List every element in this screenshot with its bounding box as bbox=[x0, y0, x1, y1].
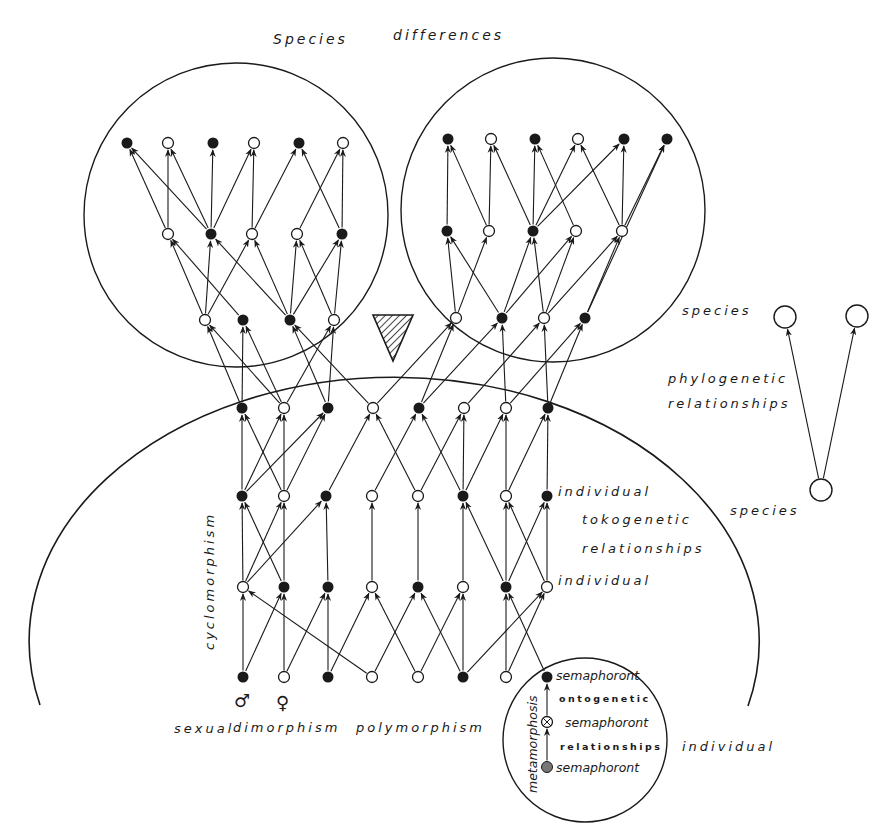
relationship-arrow bbox=[255, 240, 288, 314]
relationship-arrow bbox=[533, 146, 535, 225]
open-semaphoront-node bbox=[501, 403, 512, 414]
open-semaphoront-node bbox=[573, 134, 584, 145]
open-semaphoront-node bbox=[367, 491, 378, 502]
label-metamorphosis: metamorphosis bbox=[525, 695, 540, 793]
open-semaphoront-node bbox=[279, 403, 290, 414]
filled-semaphoront-node bbox=[528, 226, 539, 237]
relationship-arrow bbox=[171, 149, 208, 228]
semaphoront-diagram: Species differences species phylogenetic… bbox=[0, 0, 888, 840]
filled-semaphoront-node bbox=[323, 672, 334, 683]
open-semaphoront-node bbox=[338, 138, 349, 149]
open-semaphoront-node bbox=[571, 226, 582, 237]
open-semaphoront-node bbox=[329, 315, 340, 326]
filled-semaphoront-node bbox=[122, 138, 133, 149]
filled-semaphoront-node bbox=[279, 582, 290, 593]
relationship-arrow bbox=[291, 241, 297, 314]
label-tokogenetic-relationships: relationships bbox=[582, 541, 704, 556]
filled-semaphoront-node bbox=[337, 229, 348, 240]
label-semaphoront-2: semaphoront bbox=[565, 715, 649, 730]
relationship-arrow bbox=[342, 150, 343, 228]
boundaries bbox=[29, 58, 759, 822]
open-semaphoront-node bbox=[279, 672, 290, 683]
relationship-arrow bbox=[622, 146, 624, 225]
relationship-arrow bbox=[242, 327, 243, 402]
filled-semaphoront-node bbox=[285, 315, 296, 326]
relationship-arrow bbox=[451, 237, 499, 313]
filled-semaphoront-node bbox=[443, 134, 454, 145]
label-ontogenetic: ontogenetic bbox=[559, 693, 651, 704]
filled-semaphoront-node bbox=[323, 582, 334, 593]
relationship-arrow bbox=[466, 502, 503, 581]
label-phylogenetic: phylogenetic bbox=[667, 371, 788, 386]
filled-semaphoront-node bbox=[206, 229, 217, 240]
filled-semaphoront-node bbox=[458, 491, 469, 502]
relationship-arrow bbox=[538, 144, 620, 226]
relationship-arrow bbox=[534, 238, 543, 312]
relationship-arrow bbox=[423, 323, 497, 403]
relationship-arrow bbox=[208, 327, 240, 403]
relationship-arrow bbox=[171, 240, 203, 314]
relationship-arrow bbox=[494, 145, 530, 225]
relationship-arrow bbox=[252, 150, 254, 228]
relationship-arrow bbox=[510, 323, 580, 403]
relationship-arrow bbox=[581, 145, 619, 225]
filled-semaphoront-node bbox=[208, 138, 219, 149]
relationship-arrow bbox=[788, 329, 819, 478]
open-semaphoront-node bbox=[163, 138, 174, 149]
filled-semaphoront-node bbox=[323, 403, 334, 414]
open-semaphoront-node bbox=[249, 138, 260, 149]
label-ontogenetic-relationships: relationships bbox=[560, 741, 663, 752]
filled-semaphoront-node bbox=[414, 403, 425, 414]
relationship-arrow bbox=[335, 241, 342, 314]
male-symbol-icon: ♂ bbox=[234, 690, 250, 711]
open-semaphoront-node bbox=[617, 226, 628, 237]
relationship-arrow bbox=[216, 239, 286, 315]
open-semaphoront-node bbox=[279, 491, 290, 502]
open-semaphoront-node bbox=[413, 672, 424, 683]
relationship-arrows bbox=[130, 144, 855, 761]
relationship-arrow bbox=[509, 414, 545, 490]
relationship-arrow bbox=[246, 326, 281, 402]
relationship-arrow bbox=[331, 593, 369, 671]
open-semaphoront-node bbox=[367, 672, 378, 683]
open-semaphoront-node bbox=[451, 313, 462, 324]
relationship-arrow bbox=[447, 146, 448, 225]
filled-semaphoront-node bbox=[662, 134, 673, 145]
relationship-arrow bbox=[823, 328, 854, 478]
hatched-triangle-icon bbox=[373, 315, 413, 361]
open-semaphoront-node bbox=[238, 582, 249, 593]
label-cyclomorphism: cyclomorphism bbox=[202, 512, 217, 650]
open-semaphoront-node bbox=[539, 313, 550, 324]
species-circle-right bbox=[401, 58, 705, 362]
relationship-arrow bbox=[249, 591, 367, 673]
relationship-arrow bbox=[214, 149, 251, 228]
relationship-arrow bbox=[132, 148, 207, 229]
relationship-arrow bbox=[211, 150, 213, 228]
female-symbol-icon: ♀ bbox=[276, 692, 289, 713]
relationship-arrow bbox=[448, 238, 456, 312]
relationship-arrow bbox=[130, 149, 165, 228]
diagram-canvas: Species differences species phylogenetic… bbox=[0, 0, 888, 840]
filled-semaphoront-node bbox=[237, 491, 248, 502]
filled-semaphoront-node bbox=[321, 491, 332, 502]
species-node bbox=[846, 305, 868, 327]
label-individual-outer: individual bbox=[682, 739, 775, 754]
label-phylogenetic-relationships: relationships bbox=[668, 396, 790, 411]
filled-semaphoront-node bbox=[442, 226, 453, 237]
open-semaphoront-node bbox=[163, 229, 174, 240]
filled-semaphoront-node bbox=[542, 491, 553, 502]
filled-semaphoront-node bbox=[413, 582, 424, 593]
relationship-arrow bbox=[326, 503, 328, 581]
label-polymorphism: polymorphism bbox=[355, 720, 485, 735]
relationship-arrow bbox=[458, 238, 486, 312]
filled-semaphoront-node bbox=[238, 672, 249, 683]
filled-semaphoront-node bbox=[530, 134, 541, 145]
label-dimorphism: dimorphism bbox=[233, 720, 340, 735]
filled-semaphoront-node bbox=[294, 138, 305, 149]
filled-semaphoront-node bbox=[458, 672, 469, 683]
filled-semaphoront-node bbox=[619, 134, 630, 145]
filled-semaphoront-node bbox=[580, 313, 591, 324]
species-node bbox=[810, 479, 832, 501]
label-sexual: sexual bbox=[174, 721, 234, 736]
relationship-arrow bbox=[547, 415, 548, 490]
